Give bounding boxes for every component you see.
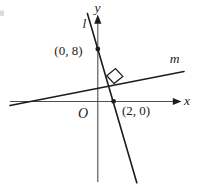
x-axis-label: x [183, 93, 190, 108]
y-axis-label: y [93, 0, 101, 15]
line-l [87, 14, 136, 183]
point-2-0-label: (2, 0) [122, 103, 150, 118]
point-0-8-label: (0, 8) [54, 43, 82, 58]
scan-artifact [0, 11, 4, 17]
x-axis-arrow-icon [173, 98, 182, 105]
line-m-label: m [170, 51, 180, 66]
y-axis-arrow-icon [94, 15, 101, 24]
point-0-8-dot [95, 47, 100, 52]
line-l-label: l [83, 16, 87, 31]
right-angle-marker [107, 69, 123, 84]
line-m [10, 72, 184, 106]
geometry-figure: y x O l m (0, 8) (2, 0) [0, 0, 197, 188]
origin-label: O [78, 106, 88, 121]
point-2-0-dot [111, 99, 116, 104]
